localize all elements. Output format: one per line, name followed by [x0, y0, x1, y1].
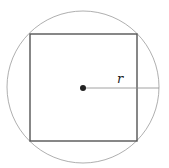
radius-label: r: [117, 71, 124, 86]
diagram-canvas: r: [0, 0, 169, 168]
center-point: [80, 85, 86, 91]
inscribed-square-diagram: r: [0, 0, 169, 168]
